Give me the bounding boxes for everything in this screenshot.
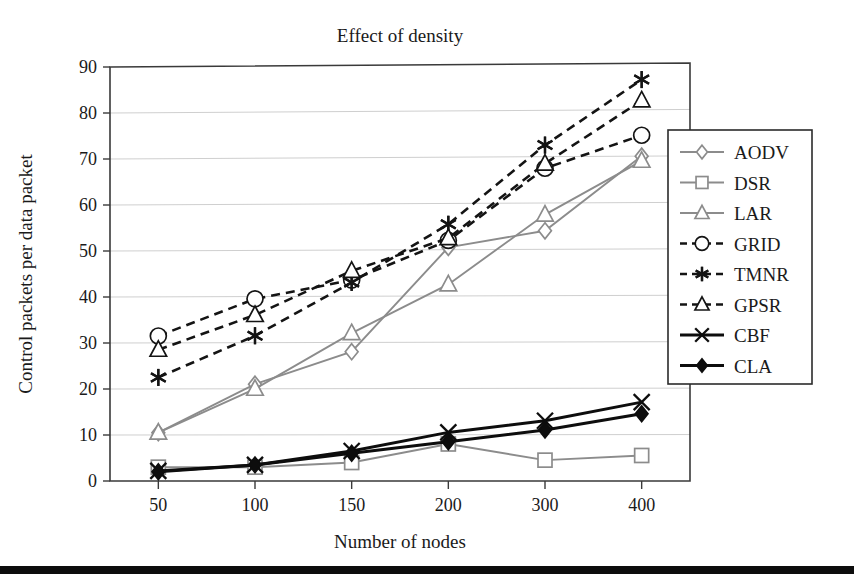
chart-legend: AODVDSRLARGRIDTMNRGPSRCBFCLA [668, 130, 812, 384]
x-tick-label: 300 [532, 495, 559, 515]
data-point-marker-square-open [538, 453, 552, 467]
x-tick-label: 50 [149, 495, 167, 515]
legend-label-grid: GRID [734, 234, 780, 255]
chart-figure: Effect of density 0102030405060708090 50… [0, 0, 854, 581]
x-axis-title: Number of nodes [334, 531, 466, 552]
data-point-marker-circle-open [695, 237, 709, 251]
y-tick-label: 40 [79, 287, 97, 307]
legend-label-dsr: DSR [734, 173, 771, 194]
y-tick-label: 0 [88, 471, 97, 491]
y-tick-label: 80 [79, 103, 97, 123]
chart-title: Effect of density [337, 25, 464, 46]
y-tick-label: 70 [79, 149, 97, 169]
data-point-marker-square-open [696, 177, 708, 189]
legend-label-lar: LAR [734, 203, 772, 224]
effect-of-density-line-chart: Effect of density 0102030405060708090 50… [0, 0, 854, 581]
x-tick-label: 200 [435, 495, 462, 515]
y-tick-label: 20 [79, 379, 97, 399]
y-axis-title: Control packets per data packet [15, 154, 36, 394]
x-tick-label: 100 [242, 495, 269, 515]
page-rule-bar [0, 566, 854, 574]
y-tick-label: 30 [79, 333, 97, 353]
y-tick-label: 90 [79, 57, 97, 77]
legend-label-cbf: CBF [734, 325, 770, 346]
x-tick-label: 400 [628, 495, 655, 515]
y-tick-label: 10 [79, 425, 97, 445]
y-tick-label: 60 [79, 195, 97, 215]
x-tick-label: 150 [338, 495, 365, 515]
legend-label-cla: CLA [734, 356, 772, 377]
data-point-marker-square-open [635, 448, 649, 462]
legend-label-gpsr: GPSR [734, 295, 782, 316]
data-point-marker-circle-open [634, 127, 650, 143]
legend-label-tmnr: TMNR [734, 264, 789, 285]
y-tick-label: 50 [79, 241, 97, 261]
legend-label-aodv: AODV [734, 142, 789, 163]
